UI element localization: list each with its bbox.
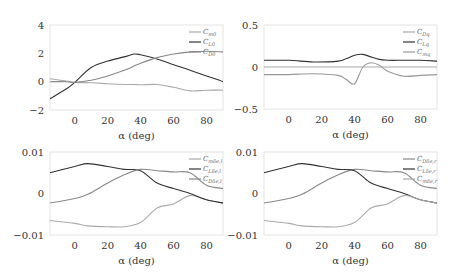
y-tick-label: 0.01 <box>22 147 44 158</box>
legend-label: Cm0 <box>203 28 217 37</box>
x-tick-label: 80 <box>200 240 213 251</box>
x-tick-label: 0 <box>72 115 78 126</box>
legend-label: CL0 <box>203 38 216 47</box>
series-line <box>50 169 223 203</box>
x-axis-label: α (deg) <box>332 255 369 266</box>
chart-panel-top-right: 0.50−0.5020406080α (deg)CDqCLqCmq <box>234 20 437 141</box>
y-tick-label: 0.5 <box>242 20 258 31</box>
series-line <box>264 196 437 228</box>
x-tick-label: 20 <box>101 240 114 251</box>
legend-label: Cmq <box>417 48 430 58</box>
legend-label: CLδe,l <box>203 165 221 174</box>
series-line <box>50 51 223 82</box>
x-tick-label: 20 <box>101 115 114 126</box>
y-tick-label: −2 <box>29 105 44 116</box>
y-tick-label: 0 <box>38 188 44 199</box>
y-tick-label: −0.01 <box>227 230 258 241</box>
series-line <box>50 196 223 228</box>
x-tick-label: 80 <box>414 114 427 125</box>
y-tick-label: −0.5 <box>234 104 258 115</box>
x-axis-label: α (deg) <box>118 130 155 141</box>
x-tick-label: 40 <box>134 115 147 126</box>
plot-frame <box>50 25 223 110</box>
x-tick-label: 0 <box>286 114 292 125</box>
x-tick-label: 40 <box>348 240 361 251</box>
x-tick-label: 40 <box>134 240 147 251</box>
y-tick-label: 0 <box>252 188 258 199</box>
legend-label: CLδe,r <box>417 165 436 174</box>
x-tick-label: 40 <box>348 114 361 125</box>
y-tick-label: 0.01 <box>236 147 258 158</box>
y-tick-label: 2 <box>38 48 44 59</box>
legend-label: Cmδe,l <box>203 155 223 164</box>
x-tick-label: 60 <box>167 240 180 251</box>
legend-label: CDq <box>417 28 430 38</box>
x-tick-label: 20 <box>315 240 328 251</box>
series-line <box>264 169 437 203</box>
series-line <box>264 54 437 62</box>
chart-panel-bottom-left: 0.010−0.01020406080α (deg)Cmδe,lCLδe,lCD… <box>13 147 223 267</box>
chart-panel-bottom-right: 0.010−0.01020406080α (deg)CDδe,rCLδe,rCm… <box>227 147 437 267</box>
y-tick-label: 4 <box>38 20 44 31</box>
legend-label: CDδe,l <box>203 175 222 184</box>
figure: 420−2020406080α (deg)Cm0CL0CD00.50−0.502… <box>0 0 461 275</box>
x-tick-label: 60 <box>381 240 394 251</box>
series-line <box>264 63 437 85</box>
y-tick-label: −0.01 <box>13 230 44 241</box>
plot-frame <box>50 152 223 235</box>
legend-label: Cmδe,r <box>417 175 438 184</box>
series-line <box>50 54 223 99</box>
x-tick-label: 60 <box>167 115 180 126</box>
x-tick-label: 60 <box>381 114 394 125</box>
legend-label: CLq <box>417 38 429 48</box>
x-tick-label: 0 <box>286 240 292 251</box>
y-tick-label: 0 <box>38 76 44 87</box>
x-tick-label: 80 <box>414 240 427 251</box>
plot-frame <box>264 152 437 235</box>
legend-label: CDδe,r <box>417 155 437 164</box>
x-tick-label: 20 <box>315 114 328 125</box>
x-axis-label: α (deg) <box>118 255 155 266</box>
x-tick-label: 0 <box>72 240 78 251</box>
legend-label: CD0 <box>203 48 216 57</box>
x-tick-label: 80 <box>200 115 213 126</box>
chart-panel-top-left: 420−2020406080α (deg)Cm0CL0CD0 <box>29 20 223 142</box>
x-axis-label: α (deg) <box>332 129 369 140</box>
y-tick-label: 0 <box>252 62 258 73</box>
